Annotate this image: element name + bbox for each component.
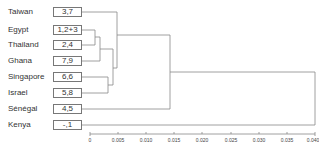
tick-label: 0.015 <box>168 137 181 143</box>
tick-label: 0.010 <box>140 137 153 143</box>
tick-label: 0.005 <box>112 137 125 143</box>
x-axis-ticks: 0 0.005 0.010 0.015 0.020 0.025 0.030 0.… <box>89 137 319 143</box>
tick-label: 0.025 <box>225 137 238 143</box>
tick-label: 0.035 <box>281 137 294 143</box>
tick-label: 0.040 <box>307 137 319 143</box>
dendrogram-tree: 0 0.005 0.010 0.015 0.020 0.025 0.030 0.… <box>0 0 319 152</box>
tick-label: 0.020 <box>196 137 209 143</box>
tick-label: 0.030 <box>253 137 266 143</box>
tick-label: 0 <box>89 137 92 143</box>
